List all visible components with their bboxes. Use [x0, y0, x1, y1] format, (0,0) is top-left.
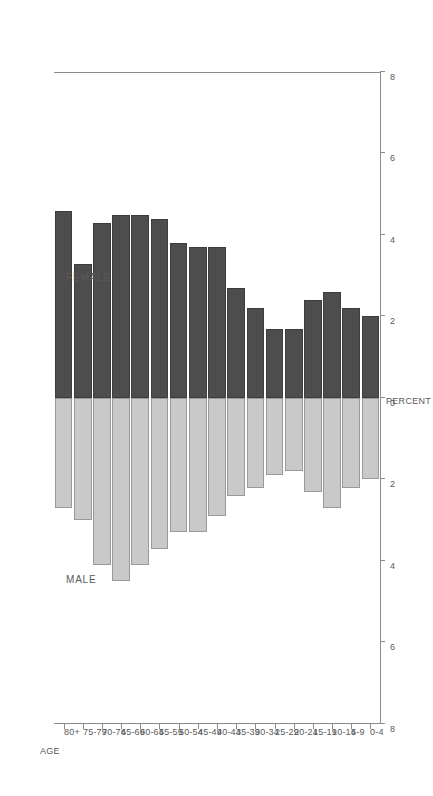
bar-male-80+: [54, 398, 72, 508]
bar-row: [323, 72, 341, 724]
bar-female-55-59: [150, 219, 168, 398]
bar-row: [93, 72, 111, 724]
percent-label-2: 4: [390, 561, 395, 571]
bar-male-30-34: [246, 398, 264, 488]
bar-male-70-74: [93, 398, 111, 565]
bar-female-65-69: [112, 215, 130, 398]
bar-female-45-49: [189, 247, 207, 398]
bar-row: [73, 72, 91, 724]
female-series-label: FEMALE: [66, 272, 111, 283]
bar-female-0-4: [361, 317, 379, 399]
bar-male-5-9: [342, 398, 360, 488]
bar-male-50-54: [169, 398, 187, 532]
percent-label-8: 8: [390, 72, 395, 82]
age-axis-title: AGE: [40, 746, 60, 756]
percent-label-3: 2: [390, 480, 395, 490]
bar-row: [227, 72, 245, 724]
percent-label-0: 8: [390, 724, 395, 734]
plot-area: FEMALE MALE: [54, 72, 380, 724]
bar-female-5-9: [342, 308, 360, 398]
bar-male-40-44: [208, 398, 226, 516]
bar-female-80+: [54, 211, 72, 398]
bar-male-60-64: [131, 398, 149, 565]
bar-row: [265, 72, 283, 724]
bar-row: [342, 72, 360, 724]
age-label-0-4: 0-4: [370, 727, 384, 737]
percent-label-7: 6: [390, 154, 395, 164]
bar-female-20-24: [284, 329, 302, 398]
male-series-label: MALE: [66, 574, 96, 585]
chart-canvas: AGE FEMALE MALE PERCENT 80+75-7970-7465-…: [0, 0, 433, 796]
percent-label-1: 6: [390, 643, 395, 653]
bar-male-65-69: [112, 398, 130, 581]
bar-male-15-19: [304, 398, 322, 492]
percent-label-5: 2: [390, 317, 395, 327]
population-pyramid-figure: AGE FEMALE MALE PERCENT 80+75-7970-7465-…: [42, 48, 392, 748]
bar-row: [304, 72, 322, 724]
age-label-80+: 80+: [63, 727, 79, 737]
bar-female-50-54: [169, 243, 187, 398]
bar-row: [361, 72, 379, 724]
bar-female-25-29: [265, 329, 283, 398]
bar-female-60-64: [131, 215, 149, 398]
bar-male-0-4: [361, 398, 379, 480]
bar-row: [112, 72, 130, 724]
bar-male-55-59: [150, 398, 168, 549]
bar-row: [150, 72, 168, 724]
bar-female-40-44: [208, 247, 226, 398]
bar-male-35-39: [227, 398, 245, 496]
bar-male-75-79: [73, 398, 91, 520]
bar-row: [246, 72, 264, 724]
bar-male-45-49: [189, 398, 207, 532]
bar-male-25-29: [265, 398, 283, 475]
percent-axis-rule: [380, 72, 381, 724]
bar-row: [169, 72, 187, 724]
bar-female-75-79: [73, 264, 91, 398]
bar-row: [284, 72, 302, 724]
bar-male-10-14: [323, 398, 341, 508]
bar-row: [131, 72, 149, 724]
bar-female-15-19: [304, 300, 322, 398]
bar-male-20-24: [284, 398, 302, 471]
bar-row: [54, 72, 72, 724]
bar-female-35-39: [227, 288, 245, 398]
age-label-5-9: 5-9: [351, 727, 365, 737]
bar-female-10-14: [323, 292, 341, 398]
bar-female-30-34: [246, 308, 264, 398]
bar-female-70-74: [93, 223, 111, 398]
bar-row: [189, 72, 207, 724]
percent-label-4: 0: [390, 398, 395, 408]
percent-label-6: 4: [390, 235, 395, 245]
bar-row: [208, 72, 226, 724]
